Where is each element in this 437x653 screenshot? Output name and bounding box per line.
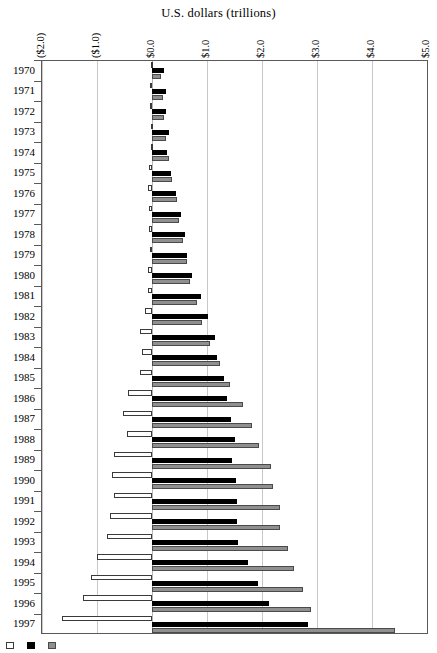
bar-gray-1976	[152, 197, 177, 202]
bar-gray-1987	[152, 423, 252, 428]
y-axis-year-label: 1982	[13, 311, 35, 322]
y-axis-year-label: 1972	[13, 106, 35, 117]
bar-gray-1990	[152, 484, 273, 489]
bar-white-1974	[151, 144, 153, 149]
y-axis-tick	[34, 470, 41, 471]
bar-black-1980	[152, 273, 192, 278]
chart-container: U.S. dollars (trillions) ($2.0)($1.0)$0.…	[0, 0, 437, 653]
y-axis-tick	[34, 327, 41, 328]
y-axis-tick	[34, 163, 41, 164]
bar-gray-1983	[152, 341, 210, 346]
y-axis-tick	[34, 614, 41, 615]
bar-black-1995	[152, 581, 258, 586]
y-axis-year-label: 1978	[13, 229, 35, 240]
bar-black-1992	[152, 519, 237, 524]
bar-black-1985	[152, 376, 224, 381]
bar-black-1982	[152, 314, 208, 319]
y-axis-year-label: 1993	[13, 536, 35, 547]
bar-gray-1980	[152, 279, 190, 284]
bar-gray-1985	[152, 382, 230, 387]
bar-black-1977	[152, 212, 181, 217]
chart-axis-title: U.S. dollars (trillions)	[0, 6, 437, 21]
bar-white-1985	[140, 370, 152, 375]
y-axis-tick	[34, 491, 41, 492]
bar-white-1979	[150, 247, 152, 252]
bar-black-1972	[152, 109, 166, 114]
y-axis-tick	[34, 306, 41, 307]
y-axis-year-label: 1985	[13, 372, 35, 383]
y-axis-year-label: 1984	[13, 352, 35, 363]
y-axis-tick	[34, 511, 41, 512]
y-axis-tick	[34, 388, 41, 389]
bar-gray-1981	[152, 300, 197, 305]
x-axis-tick-labels: ($2.0)($1.0)$0.0$1.0$2.0$3.0$4.0$5.0	[0, 20, 437, 58]
legend-swatch-white	[6, 642, 14, 649]
bar-gray-1973	[152, 136, 166, 141]
bar-gray-1975	[152, 177, 172, 182]
y-axis-tick	[34, 347, 41, 348]
bar-black-1986	[152, 396, 227, 401]
bar-white-1976	[148, 185, 152, 190]
y-axis-year-label: 1995	[13, 577, 35, 588]
bar-gray-1988	[152, 443, 259, 448]
x-tick-label: ($2.0)	[35, 33, 46, 58]
bar-gray-1995	[152, 587, 303, 592]
bar-white-1972	[150, 103, 152, 108]
y-axis-tick	[34, 245, 41, 246]
bar-white-1994	[97, 554, 152, 559]
bar-white-1971	[150, 83, 152, 88]
plot-area	[41, 60, 428, 634]
bar-white-1970	[151, 62, 153, 67]
y-axis-tick	[34, 286, 41, 287]
y-axis-year-label: 1977	[13, 208, 35, 219]
bar-white-1977	[149, 206, 152, 211]
y-axis-year-label: 1971	[13, 85, 35, 96]
y-axis-year-label: 1975	[13, 167, 35, 178]
y-axis-year-label: 1988	[13, 434, 35, 445]
legend-item-2	[48, 639, 59, 650]
bar-white-1978	[149, 226, 152, 231]
bar-white-1973	[151, 124, 153, 129]
bar-white-1996	[83, 595, 152, 600]
x-tick-label: ($1.0)	[90, 33, 101, 58]
y-axis-tick	[34, 532, 41, 533]
bar-white-1984	[142, 349, 152, 354]
bar-gray-1992	[152, 525, 280, 530]
y-axis-tick	[34, 142, 41, 143]
gridline	[427, 61, 428, 633]
x-tick-label: $0.0	[145, 40, 156, 58]
gridline	[97, 61, 98, 633]
y-axis-tick	[34, 224, 41, 225]
y-axis-tick	[34, 265, 41, 266]
bar-black-1991	[152, 499, 237, 504]
y-axis-tick	[34, 204, 41, 205]
x-tick-label: $2.0	[255, 40, 266, 58]
bar-black-1990	[152, 478, 236, 483]
y-axis-year-label: 1980	[13, 270, 35, 281]
y-axis-year-label: 1974	[13, 147, 35, 158]
y-axis-tick	[34, 368, 41, 369]
x-tick-label: $5.0	[420, 40, 431, 58]
y-axis-year-label: 1979	[13, 249, 35, 260]
bar-white-1992	[110, 513, 152, 518]
bar-gray-1986	[152, 402, 243, 407]
y-axis-tick	[34, 101, 41, 102]
bar-gray-1972	[152, 115, 164, 120]
bar-white-1989	[114, 452, 153, 457]
bar-black-1981	[152, 294, 201, 299]
bar-white-1981	[148, 288, 152, 293]
chart-legend	[6, 639, 431, 653]
bar-gray-1989	[152, 464, 271, 469]
y-axis-year-label: 1992	[13, 516, 35, 527]
y-axis-year-label: 1976	[13, 188, 35, 199]
gridline	[42, 61, 43, 633]
bar-gray-1978	[152, 238, 183, 243]
bar-gray-1991	[152, 505, 280, 510]
bar-black-1996	[152, 601, 269, 606]
gridline	[317, 61, 318, 633]
bar-black-1976	[152, 191, 176, 196]
bar-white-1975	[149, 165, 152, 170]
bar-white-1991	[114, 493, 152, 498]
bar-black-1987	[152, 417, 231, 422]
bar-white-1987	[123, 411, 152, 416]
